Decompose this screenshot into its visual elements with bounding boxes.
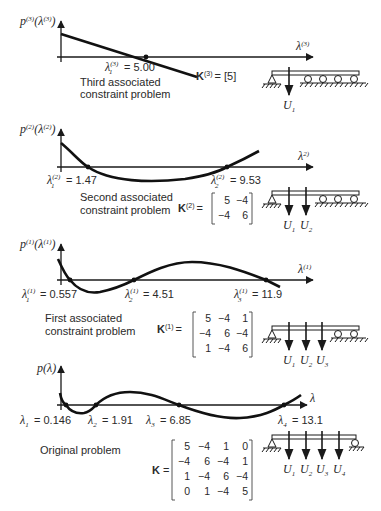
panel-title: Second associated — [80, 191, 173, 203]
beam-schematic — [262, 431, 364, 459]
panel-original: p(λ) λ λ1 = 0.146 λ2 = 1.91 λ3 = 6.85 λ4… — [19, 361, 364, 500]
displacement-label: U1 — [283, 353, 295, 369]
panel-title: First associated — [45, 312, 122, 324]
root-point — [264, 278, 269, 283]
x-axis-label: λ(1) — [297, 262, 312, 276]
root-subscript: 2 — [129, 296, 133, 304]
displacement-label: U3 — [316, 353, 329, 369]
root-subscript: 1 — [26, 296, 30, 304]
svg-text:5: 5 — [242, 485, 248, 497]
beam-schematic — [262, 67, 368, 95]
root-subscript: 1 — [109, 68, 113, 76]
root-point — [177, 403, 182, 408]
svg-text:0: 0 — [242, 440, 248, 452]
svg-text:1: 1 — [205, 342, 211, 354]
root-point — [86, 165, 91, 170]
root-label: λ1 — [19, 413, 29, 429]
svg-text:−4: −4 — [218, 312, 230, 324]
svg-text:0: 0 — [184, 485, 190, 497]
svg-text:K=: K= — [152, 464, 169, 476]
stiffness-matrix: K= 5 −4 1 0 −4 6 −4 1 1 −4 6 −4 0 1 −4 5 — [152, 440, 252, 500]
svg-text:−4: −4 — [198, 470, 210, 482]
root-subscript: 2 — [215, 182, 219, 190]
svg-text:−4: −4 — [218, 209, 230, 221]
svg-text:6: 6 — [224, 327, 230, 339]
displacement-label: U1 — [283, 462, 295, 478]
root-value: = 5.00 — [124, 61, 155, 73]
panel-first-associated: p(1)(λ(1)) λ(1) λ(1) 1 = 0.557 λ(1) 2 = … — [19, 237, 368, 369]
root-point — [132, 278, 137, 283]
y-axis-label: p(2)(λ(2)) — [19, 122, 56, 136]
svg-text:−4: −4 — [217, 485, 229, 497]
root-point — [68, 278, 73, 283]
svg-text:5: 5 — [205, 312, 211, 324]
svg-text:6: 6 — [204, 455, 210, 467]
svg-text:−4: −4 — [236, 327, 248, 339]
root-subscript: 1 — [51, 182, 55, 190]
panel-third-associated: p(3)(λ(3)) λ(3) λ(3) 1 = 5.00 Third asso… — [19, 14, 368, 114]
svg-text:6: 6 — [242, 209, 248, 221]
svg-text:−4: −4 — [217, 455, 229, 467]
displacement-label: U2 — [300, 353, 313, 369]
sturm-sequence-diagram: p(3)(λ(3)) λ(3) λ(3) 1 = 5.00 Third asso… — [0, 0, 381, 511]
displacement-label: U1 — [283, 98, 295, 114]
root-value: = 11.9 — [252, 288, 282, 300]
svg-text:−4: −4 — [218, 342, 230, 354]
root-value: = 0.146 — [34, 414, 71, 426]
svg-text:1: 1 — [242, 455, 248, 467]
stiffness-matrix: K(3)= [5] — [196, 70, 236, 82]
root-value: = 0.557 — [40, 288, 77, 300]
root-subscript: 3 — [237, 296, 242, 304]
svg-text:5: 5 — [224, 194, 230, 206]
displacement-label: U2 — [300, 218, 313, 234]
panel-title-line2: constraint problem — [45, 325, 136, 337]
svg-text:−4: −4 — [198, 440, 210, 452]
svg-text:−4: −4 — [236, 470, 248, 482]
root-value: = 1.91 — [102, 414, 133, 426]
root-point — [225, 165, 230, 170]
root-value: = 1.47 — [66, 174, 97, 186]
svg-text:5: 5 — [184, 440, 190, 452]
root-label: λ2 — [87, 413, 97, 429]
root-label: λ3 — [145, 413, 155, 429]
root-value: = 9.53 — [230, 174, 261, 186]
root-value: = 13.1 — [292, 414, 323, 426]
root-point — [282, 403, 287, 408]
root-value: = 4.51 — [143, 288, 174, 300]
displacement-label: U3 — [316, 462, 329, 478]
svg-text:6: 6 — [242, 342, 248, 354]
svg-text:−4: −4 — [199, 327, 211, 339]
panel-title-line2: constraint problem — [80, 88, 171, 100]
stiffness-matrix: K(1)= 5 −4 1 −4 6 −4 1 −4 6 — [157, 312, 252, 357]
x-axis-label: λ2) — [297, 149, 310, 163]
svg-text:1: 1 — [242, 312, 248, 324]
svg-text:1: 1 — [204, 485, 210, 497]
root-point — [64, 403, 69, 408]
svg-text:1: 1 — [223, 440, 229, 452]
y-axis-label: p(1)(λ(1)) — [19, 237, 56, 251]
svg-text:K(2)=: K(2)= — [178, 202, 203, 214]
root-value: = 6.85 — [160, 414, 191, 426]
svg-text:1: 1 — [184, 470, 190, 482]
y-axis-label: p(λ) — [36, 361, 56, 375]
x-axis-label: λ — [309, 391, 315, 405]
svg-text:−4: −4 — [178, 455, 190, 467]
root-point — [144, 55, 149, 60]
stiffness-matrix: K(2)= 5 −4 −4 6 — [178, 193, 252, 224]
beam-schematic — [262, 322, 368, 350]
displacement-label: U4 — [333, 462, 346, 478]
panel-title: Third associated — [80, 76, 161, 88]
svg-text:−4: −4 — [236, 194, 248, 206]
y-axis-label: p(3)(λ(3)) — [19, 14, 56, 28]
panel-second-associated: p(2)(λ(2)) λ2) λ(2) 1 = 1.47 λ(2) 2 = 9.… — [19, 122, 368, 234]
root-label: λ4 — [277, 413, 287, 429]
displacement-label: U1 — [283, 218, 295, 234]
svg-text:6: 6 — [223, 470, 229, 482]
svg-text:K(1)=: K(1)= — [157, 323, 182, 335]
root-point — [94, 403, 99, 408]
panel-title: Original problem — [40, 444, 121, 456]
panel-title-line2: constraint problem — [80, 204, 171, 216]
beam-schematic — [262, 187, 368, 215]
x-axis-label: λ(3) — [295, 39, 310, 53]
displacement-label: U2 — [300, 462, 313, 478]
